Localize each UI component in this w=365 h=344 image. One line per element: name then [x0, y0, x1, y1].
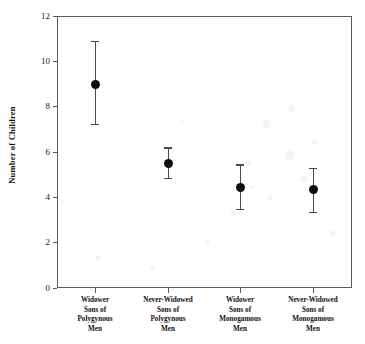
scan-speckle	[330, 230, 336, 236]
scan-speckle	[60, 200, 64, 204]
scan-speckle	[150, 265, 155, 270]
y-tick-label: 6	[46, 146, 51, 158]
y-tick-mark	[53, 242, 57, 243]
scan-speckle	[300, 175, 308, 183]
y-tick-mark	[53, 288, 57, 289]
x-tick-mark	[240, 288, 241, 293]
y-tick-label: 12	[41, 10, 50, 22]
scan-speckle	[250, 185, 254, 189]
y-axis-title: Number of Children	[0, 0, 24, 290]
chart-figure: Number of Children 024681012 WidowerSons…	[0, 0, 365, 344]
error-bar-cap-upper	[164, 147, 172, 148]
scan-speckle	[288, 105, 295, 112]
x-tick-label-line: Never-Widowed	[253, 296, 365, 306]
y-tick-mark	[53, 106, 57, 107]
y-tick-label: 8	[46, 100, 51, 112]
x-tick-label: Never-WidowedSons ofMonogamousMen	[253, 296, 365, 334]
y-tick-label: 0	[46, 282, 51, 294]
scan-speckle	[312, 140, 317, 145]
scan-speckle	[180, 120, 184, 124]
y-tick-label: 10	[41, 55, 50, 67]
x-tick-label-line: Men	[253, 325, 365, 335]
y-tick-mark	[53, 152, 57, 153]
data-point-marker	[91, 80, 100, 89]
y-tick-label: 2	[46, 236, 51, 248]
error-bar-cap-lower	[309, 212, 317, 213]
y-tick-mark	[53, 61, 57, 62]
data-point-marker	[236, 183, 245, 192]
scan-speckle	[205, 240, 210, 245]
x-tick-label-line: Sons of	[253, 306, 365, 316]
error-bar-cap-upper	[236, 164, 244, 165]
scan-speckle	[230, 210, 236, 216]
y-tick-mark	[53, 197, 57, 198]
error-bar-cap-lower	[91, 124, 99, 125]
data-point-marker	[309, 185, 318, 194]
y-tick-label: 4	[46, 191, 51, 203]
scan-speckle	[268, 195, 273, 200]
scan-speckle	[245, 160, 251, 166]
y-axis-title-text: Number of Children	[7, 106, 17, 183]
error-bar-cap-upper	[309, 168, 317, 169]
error-bar-cap-lower	[236, 209, 244, 210]
x-tick-mark	[313, 288, 314, 293]
x-tick-label-line: Monogamous	[253, 315, 365, 325]
error-bar-cap-lower	[164, 178, 172, 179]
scan-speckle	[95, 255, 101, 261]
plot-area	[57, 16, 352, 288]
x-tick-mark	[95, 288, 96, 293]
y-tick-mark	[53, 16, 57, 17]
scan-speckle	[262, 120, 271, 129]
error-bar-cap-upper	[91, 41, 99, 42]
scan-speckle	[285, 150, 295, 160]
data-point-marker	[164, 159, 173, 168]
x-tick-mark	[168, 288, 169, 293]
